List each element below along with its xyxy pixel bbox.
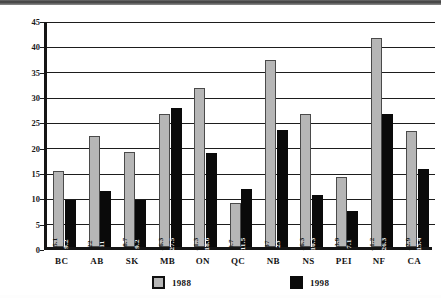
bar-ca-1998: 15.4	[418, 169, 429, 247]
y-axis-tick-label: 40	[0, 43, 40, 52]
bar-value-label: 9.2	[134, 239, 141, 248]
bar-value-label: 8.7	[228, 239, 235, 248]
bar-chart: 051015202530354045 15.19.2221118.79.226.…	[0, 0, 441, 298]
bar-sk-1988: 18.7	[124, 152, 135, 247]
y-axis-tick-label: 10	[0, 195, 40, 204]
bar-mb-1988: 26.3	[159, 114, 170, 247]
bar-bc-1998: 9.2	[65, 200, 76, 247]
x-axis-tick-label-pei: PEI	[326, 256, 361, 266]
bar-value-label: 9.2	[63, 239, 70, 248]
bar-ns-1998: 10.3	[312, 195, 323, 247]
y-axis-tick-label: 5	[0, 221, 40, 230]
black-swatch-icon	[290, 276, 303, 289]
x-axis-tick-label-qc: QC	[220, 256, 255, 266]
bar-value-label: 13.9	[334, 237, 341, 250]
legend-item-1998[interactable]: 1998	[290, 276, 329, 289]
gridline	[47, 22, 435, 23]
x-axis-tick-label-bc: BC	[44, 256, 79, 266]
bar-value-label: 23	[275, 240, 282, 247]
bar-mb-1998: 27.5	[171, 108, 182, 247]
legend-label-1998: 1998	[310, 278, 329, 288]
bar-pei-1998: 7.1	[347, 211, 358, 247]
bar-ca-1988: 22.9	[406, 131, 417, 247]
bar-ns-1988: 26.3	[300, 114, 311, 247]
y-axis-tick-label: 20	[0, 145, 40, 154]
bar-value-label: 18.7	[122, 237, 129, 250]
bar-value-label: 41.2	[369, 237, 376, 250]
y-axis-tick-label: 0	[0, 246, 40, 255]
bar-bc-1988: 15.1	[53, 171, 64, 248]
bar-value-label: 26.3	[158, 237, 165, 250]
bar-nb-1988: 37	[265, 60, 276, 247]
x-axis-tick-label-ab: AB	[79, 256, 114, 266]
x-axis-tick-label-nf: NF	[361, 256, 396, 266]
bar-value-label: 18.6	[204, 237, 211, 250]
bar-value-label: 15.4	[416, 237, 423, 250]
bar-value-label: 11.5	[240, 238, 247, 251]
gray-swatch-icon	[152, 276, 165, 289]
chart-legend: 1988 1998	[0, 274, 441, 294]
x-axis-tick-label-ca: CA	[397, 256, 432, 266]
bar-ab-1998: 11	[100, 191, 111, 247]
x-axis-tick-label-on: ON	[185, 256, 220, 266]
y-axis-tick-label: 35	[0, 69, 40, 78]
bar-on-1998: 18.6	[206, 153, 217, 247]
bar-value-label: 31.3	[193, 237, 200, 250]
x-axis-tick-label-mb: MB	[150, 256, 185, 266]
bar-nf-1998: 26.3	[382, 114, 393, 247]
bar-nb-1998: 23	[277, 130, 288, 247]
y-axis-tick-label: 25	[0, 119, 40, 128]
bar-nf-1988: 41.2	[371, 38, 382, 247]
bar-value-label: 26.3	[381, 237, 388, 250]
x-axis-tick-label-nb: NB	[256, 256, 291, 266]
y-axis-tick-label: 30	[0, 94, 40, 103]
bar-value-label: 15.1	[52, 237, 59, 250]
legend-label-1988: 1988	[172, 278, 191, 288]
y-axis-tick-label: 45	[0, 18, 40, 27]
bar-value-label: 22.9	[405, 237, 412, 250]
y-axis-tick-label: 15	[0, 170, 40, 179]
bar-value-label: 27.5	[169, 237, 176, 250]
bar-value-label: 10.3	[310, 237, 317, 250]
bar-on-1988: 31.3	[194, 88, 205, 247]
y-axis-tick-mark	[40, 250, 44, 251]
x-axis-tick-label-sk: SK	[115, 256, 150, 266]
bar-value-label: 26.3	[299, 237, 306, 250]
plot-area: 15.19.2221118.79.226.327.531.318.68.711.…	[44, 22, 432, 250]
bar-pei-1988: 13.9	[336, 177, 347, 247]
bar-qc-1998: 11.5	[241, 189, 252, 247]
legend-item-1988[interactable]: 1988	[152, 276, 191, 289]
bar-ab-1988: 22	[89, 136, 100, 247]
bar-value-label: 22	[87, 240, 94, 247]
bar-sk-1998: 9.2	[135, 200, 146, 247]
x-axis-tick-label-ns: NS	[291, 256, 326, 266]
bar-value-label: 37	[264, 240, 271, 247]
bar-value-label: 11	[99, 240, 106, 247]
bar-value-label: 7.1	[346, 239, 353, 248]
